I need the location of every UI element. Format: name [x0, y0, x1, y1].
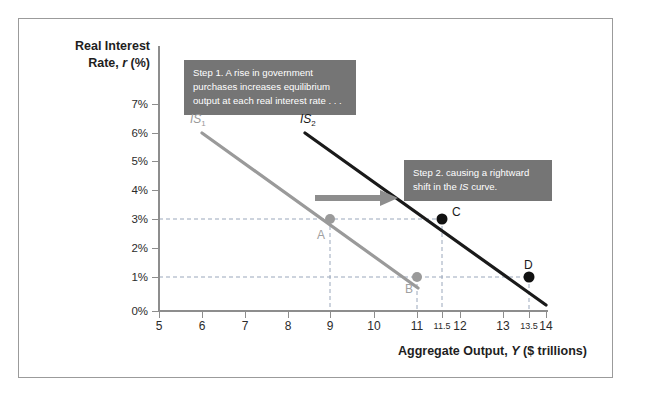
callout-step-1: Step 1. A rise in government purchases i…: [184, 60, 356, 115]
y-axis-title: Real Interest Rate, r (%): [40, 38, 150, 72]
y-tick-label-6: 6%: [108, 128, 148, 140]
x-axis-line: [158, 310, 548, 312]
y-axis-title-line2-prefix: Rate,: [88, 56, 122, 70]
figure-canvas: Real Interest Rate, r (%) Aggregate Outp…: [0, 0, 649, 398]
x-tick-label-9: 9: [315, 320, 345, 332]
point-label-b: B: [405, 283, 413, 295]
guide-lines: [159, 219, 529, 311]
x-tick-label-14: 14: [531, 320, 561, 332]
y-tick-mark: [152, 248, 158, 249]
x-axis-title-prefix: Aggregate Output,: [398, 344, 511, 358]
y-tick-label-1: 1%: [108, 272, 148, 284]
point-c: [437, 214, 448, 225]
y-tick-mark: [152, 133, 158, 134]
y-tick-label-2: 2%: [108, 243, 148, 255]
y-tick-label-3: 3%: [108, 214, 148, 226]
x-axis-title-suffix: ($ trillions): [520, 344, 587, 358]
y-axis-line: [158, 46, 160, 312]
curve-label-is1-subscript: 1: [201, 119, 205, 128]
x-tick-mark: [330, 312, 331, 318]
y-axis-title-line2-suffix: (%): [127, 56, 150, 70]
x-tick-mark: [202, 312, 203, 318]
x-tick-mark: [374, 312, 375, 318]
curve-label-is2-subscript: 2: [311, 119, 315, 128]
x-tick-mark: [503, 312, 504, 318]
x-tick-label-8: 8: [273, 320, 303, 332]
callout-step-2-suffix: curve.: [468, 181, 497, 192]
y-tick-mark: [152, 219, 158, 220]
is1-curve: [202, 133, 418, 288]
x-tick-label-12: 12: [445, 320, 475, 332]
y-tick-mark: [152, 161, 158, 162]
x-tick-label-7: 7: [230, 320, 260, 332]
y-tick-mark: [152, 277, 158, 278]
curve-label-is2-text: IS: [300, 112, 311, 126]
curve-label-is1-text: IS: [190, 112, 201, 126]
x-tick-mark: [288, 312, 289, 318]
x-axis-title: Aggregate Output, Y ($ trillions): [398, 344, 587, 358]
x-tick-label-10: 10: [359, 320, 389, 332]
x-tick-mark: [245, 312, 246, 318]
x-tick-label-5: 5: [144, 320, 174, 332]
callout-step-2: Step 2. causing a rightward shift in the…: [404, 160, 552, 201]
y-tick-mark: [152, 190, 158, 191]
x-tick-mark-minor: [442, 312, 443, 318]
x-tick-mark-minor: [529, 312, 530, 318]
x-tick-mark: [417, 312, 418, 318]
y-tick-label-0: 0%: [108, 306, 148, 318]
x-axis-title-variable: Y: [511, 344, 519, 358]
y-tick-mark: [152, 104, 158, 105]
curve-label-is1: IS1: [190, 113, 206, 128]
point-label-d: D: [524, 259, 533, 271]
point-label-c: C: [452, 206, 461, 218]
x-tick-mark: [159, 312, 160, 318]
y-tick-label-5: 5%: [108, 156, 148, 168]
point-d: [524, 272, 535, 283]
x-tick-mark: [460, 312, 461, 318]
y-tick-mark: [152, 311, 158, 312]
point-b: [412, 272, 422, 282]
x-tick-label-6: 6: [187, 320, 217, 332]
x-tick-mark: [546, 312, 547, 318]
y-tick-label-7: 7%: [108, 99, 148, 111]
curve-label-is2: IS2: [300, 113, 316, 128]
y-axis-title-line1: Real Interest: [75, 39, 150, 53]
point-label-a: A: [317, 229, 325, 241]
point-a: [325, 214, 335, 224]
y-tick-label-4: 4%: [108, 185, 148, 197]
